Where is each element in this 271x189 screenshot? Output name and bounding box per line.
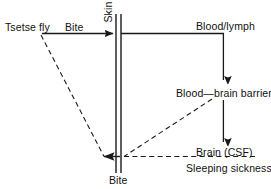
label-bite-top: Bite (65, 22, 84, 33)
label-sleeping-sickness: Sleeping sickness (186, 163, 271, 174)
blood-lymph-path (121, 33, 224, 80)
label-blood-lymph: Blood/lymph (196, 21, 255, 32)
skin-barrier-icon (116, 14, 121, 173)
flow-diagram: Tsetse fly Bite Skin Blood/lymph Blood—b… (0, 0, 271, 189)
label-bite-bottom: Bite (109, 175, 128, 186)
label-brain-csf: Brain (CSF) (196, 147, 253, 158)
label-tsetse-fly: Tsetse fly (5, 22, 50, 33)
fly-return-dashed-path (41, 35, 104, 157)
label-blood-brain-barrier: Blood—brain barrier (176, 88, 271, 99)
label-skin: Skin (103, 2, 114, 23)
